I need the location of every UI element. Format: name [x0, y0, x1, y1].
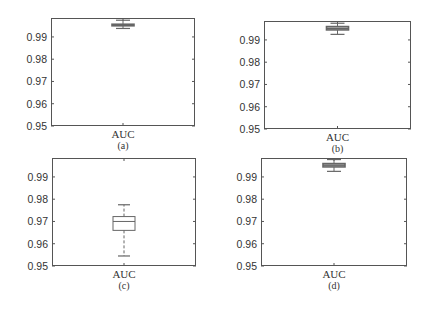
y-tick-label: 0.96	[217, 239, 257, 249]
x-axis-label: AUC	[304, 268, 364, 280]
boxplot-svg	[0, 0, 431, 309]
y-tick-label: 0.95	[217, 261, 257, 271]
panel-caption: (d)	[314, 280, 354, 291]
y-tick-label: 0.97	[217, 216, 257, 226]
y-tick-label: 0.99	[217, 172, 257, 182]
y-tick-label: 0.98	[217, 194, 257, 204]
